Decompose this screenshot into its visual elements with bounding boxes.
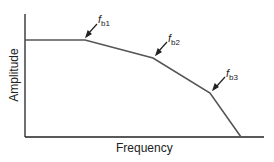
amplitude-curve (25, 40, 241, 137)
fb2-label: fb2 (168, 32, 180, 47)
fb3-label: fb3 (226, 67, 238, 82)
fb1-label: fb1 (98, 13, 110, 28)
x-axis-label: Frequency (116, 141, 173, 155)
arrow-fb3 (216, 77, 225, 87)
y-axis-label: Amplitude (7, 45, 21, 105)
